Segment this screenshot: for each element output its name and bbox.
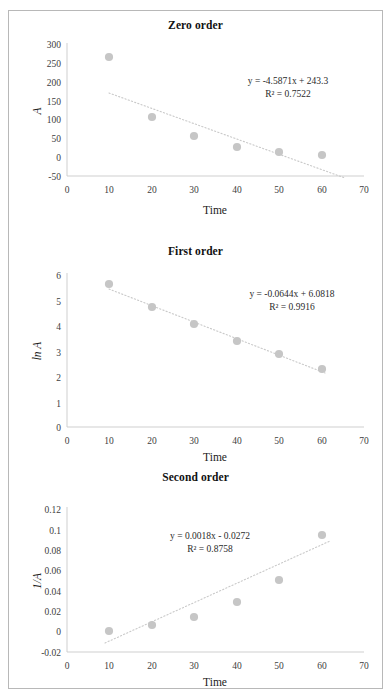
figure-frame: Zero order 300 250 200 150 100 50 0 -50 … (8, 10, 383, 689)
x-tick-label: 20 (147, 185, 157, 195)
x-axis-title: Time (203, 204, 227, 216)
x-tick-label: 60 (317, 661, 327, 671)
y-tick-label: -50 (48, 172, 61, 182)
data-point (233, 598, 241, 606)
y-axis-title: A (31, 107, 43, 116)
data-point (318, 531, 326, 539)
x-tick-label: 60 (317, 185, 327, 195)
y-tick-label: -0.02 (41, 648, 61, 658)
y-tick-label: 1 (56, 399, 61, 409)
data-point (190, 613, 198, 621)
data-point (233, 143, 241, 151)
plot-first-order: 6 5 4 3 2 1 0 0 10 20 30 40 50 60 70 Tim… (9, 239, 382, 465)
data-point (148, 113, 156, 121)
x-tick-label: 0 (65, 661, 70, 671)
x-tick-label: 30 (189, 436, 199, 446)
data-point (233, 337, 241, 345)
plot-zero-order: 300 250 200 150 100 50 0 -50 0 10 20 30 … (9, 13, 382, 239)
data-point (105, 280, 113, 288)
chart-panel-zero-order: Zero order 300 250 200 150 100 50 0 -50 … (9, 13, 382, 239)
x-tick-label: 30 (189, 185, 199, 195)
data-point (105, 53, 113, 61)
y-tick-label: 0.04 (44, 587, 61, 597)
y-tick-label: 0.12 (44, 505, 61, 515)
x-tick-label: 20 (147, 661, 157, 671)
y-tick-label: 0.06 (44, 566, 61, 576)
data-point (190, 320, 198, 328)
y-tick-label: 100 (47, 115, 62, 125)
y-tick-label: 0 (56, 423, 61, 433)
y-axis-title: 1/A (31, 572, 43, 589)
x-tick-label: 50 (274, 436, 284, 446)
trendline-r2-label: R² = 0.9916 (269, 302, 315, 312)
y-tick-label: 0.1 (49, 526, 61, 536)
trendline-equation-label: y = -0.0644x + 6.0818 (249, 289, 334, 299)
x-tick-label: 40 (232, 436, 242, 446)
plot-second-order: 0.12 0.1 0.08 0.06 0.04 0.02 0 -0.02 0 1… (9, 465, 382, 691)
y-tick-label: 50 (52, 134, 62, 144)
trendline-equation-label: y = -4.5871x + 243.3 (248, 76, 329, 86)
y-tick-label: 5 (56, 297, 61, 307)
x-tick-label: 40 (232, 661, 242, 671)
y-tick-label: 300 (47, 40, 62, 50)
data-point (275, 576, 283, 584)
x-tick-label: 50 (274, 185, 284, 195)
y-tick-label: 0.02 (44, 607, 61, 617)
y-tick-label: 3 (56, 348, 61, 358)
x-tick-label: 40 (232, 185, 242, 195)
x-tick-label: 10 (104, 436, 114, 446)
x-axis-title: Time (203, 451, 227, 463)
y-tick-label: 250 (47, 59, 62, 69)
data-point (148, 303, 156, 311)
y-tick-label: 200 (47, 78, 62, 88)
chart-panel-first-order: First order 6 5 4 3 2 1 0 0 10 20 30 40 … (9, 239, 382, 465)
data-point (190, 132, 198, 140)
y-tick-label: 150 (47, 97, 62, 107)
x-tick-label: 60 (317, 436, 327, 446)
x-tick-label: 30 (189, 661, 199, 671)
x-axis-title: Time (203, 676, 227, 688)
x-tick-label: 20 (147, 436, 157, 446)
data-point (275, 148, 283, 156)
trendline-r2-label: R² = 0.8758 (187, 544, 233, 554)
y-tick-label: 4 (56, 322, 61, 332)
data-point (105, 627, 113, 635)
x-tick-label: 70 (359, 436, 369, 446)
x-tick-label: 10 (104, 185, 114, 195)
trendline (109, 93, 345, 178)
x-tick-label: 0 (65, 185, 70, 195)
x-tick-label: 10 (104, 661, 114, 671)
x-tick-label: 70 (359, 185, 369, 195)
data-point (148, 621, 156, 629)
trendline-equation-label: y = 0.0018x - 0.0272 (170, 531, 250, 541)
trendline (105, 541, 330, 643)
y-tick-label: 2 (56, 373, 61, 383)
y-tick-label: 0 (56, 627, 61, 637)
trendline-r2-label: R² = 0.7522 (265, 89, 311, 99)
x-tick-label: 70 (359, 661, 369, 671)
y-tick-label: 0 (56, 153, 61, 163)
data-point (318, 365, 326, 373)
x-tick-label: 0 (65, 436, 70, 446)
y-axis-title: ln A (31, 341, 43, 361)
x-tick-label: 50 (274, 661, 284, 671)
data-point (275, 350, 283, 358)
y-tick-label: 6 (56, 271, 61, 281)
y-tick-label: 0.08 (44, 546, 61, 556)
data-point (318, 151, 326, 159)
chart-panel-second-order: Second order 0.12 0.1 0.08 0.06 0.04 0.0… (9, 465, 382, 691)
